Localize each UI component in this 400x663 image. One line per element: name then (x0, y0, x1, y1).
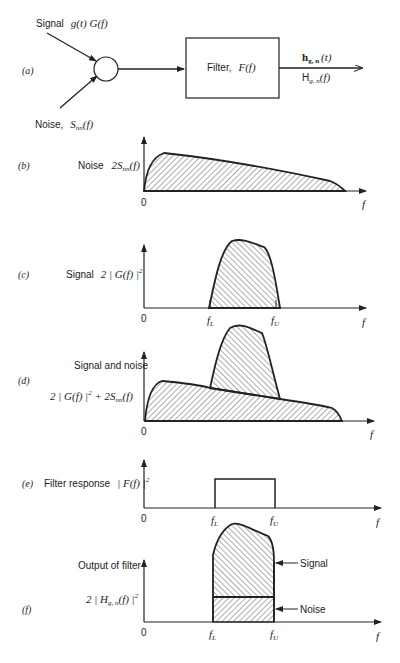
part-f-origin: 0 (141, 627, 147, 638)
part-a-label: (a) (22, 65, 34, 77)
part-e-filter-response: (e) Filter response | F(f) |2 0 fL fU f (22, 460, 381, 528)
part-e-origin: 0 (141, 513, 147, 524)
part-e-ylabel: Filter response | F(f) |2 (44, 473, 150, 490)
filter-passband (215, 479, 275, 508)
output-freq-label: Hg, n(f) (302, 71, 330, 85)
part-e-x-label: f (376, 516, 381, 528)
noise-input-arrow (60, 76, 97, 108)
part-c-ylabel: Signal 2 | G(f) |2 (66, 264, 143, 281)
part-d-ylabel-line2: 2 | G(f) |2 + 2Snn(f) (50, 389, 133, 404)
part-c-label: (c) (18, 269, 30, 281)
part-f-x-label: f (376, 630, 381, 642)
noise-annotation: Noise (300, 604, 326, 615)
part-d-ylabel-line1: Signal and noise (74, 360, 148, 371)
output-time-label: hg, n(t) (302, 51, 332, 65)
part-b-label: (b) (18, 160, 30, 172)
part-d-x-label: f (370, 428, 375, 440)
part-c-fL: fL (207, 314, 214, 328)
part-f-filter-output: (f) Output of filter 2 | Hg, n(f) |2 Sig… (22, 524, 381, 642)
output-signal-region (213, 524, 274, 597)
signal-spectrum-curve (209, 240, 280, 308)
noise-input-label: Noise, Snn(f) (35, 114, 94, 132)
part-f-fL: fL (209, 628, 216, 642)
part-c-signal-spectrum: (c) Signal 2 | G(f) |2 0 fL fU f (18, 240, 367, 328)
part-c-fU: fU (271, 314, 280, 328)
signal-input-arrow (47, 33, 96, 61)
part-b-origin: 0 (141, 197, 147, 208)
summing-junction (94, 57, 118, 81)
output-noise-region (213, 597, 274, 622)
filter-spectrum-diagram: (a) Signal g(t) G(f) Noise, Snn(f) Filte… (0, 0, 400, 663)
part-e-fL: fL (211, 514, 218, 528)
part-f-ylabel-line2: 2 | Hg, n(f) |2 (86, 592, 139, 607)
part-d-label: (d) (18, 375, 30, 387)
part-c-origin: 0 (141, 313, 147, 324)
part-b-ylabel: Noise 2Snn(f) (78, 155, 140, 173)
noise-spectrum-curve (144, 153, 345, 191)
part-b-noise-spectrum: (b) Noise 2Snn(f) 0 f (18, 137, 367, 210)
part-d-origin: 0 (141, 426, 147, 437)
part-f-fU: fU (270, 628, 279, 642)
part-a-block-diagram: (a) Signal g(t) G(f) Noise, Snn(f) Filte… (22, 13, 362, 132)
signal-annotation: Signal (300, 558, 328, 569)
combined-signal-peak (210, 325, 280, 399)
part-d-signal-plus-noise: (d) Signal and noise 2 | G(f) |2 + 2Snn(… (18, 325, 375, 440)
part-f-label: (f) (22, 604, 32, 616)
part-e-label: (e) (22, 478, 34, 490)
signal-input-label: Signal g(t) G(f) (36, 13, 108, 30)
part-b-x-label: f (362, 198, 367, 210)
part-f-ylabel-line1: Output of filter (78, 560, 141, 571)
part-e-fU: fU (270, 514, 279, 528)
part-c-x-label: f (362, 316, 367, 328)
